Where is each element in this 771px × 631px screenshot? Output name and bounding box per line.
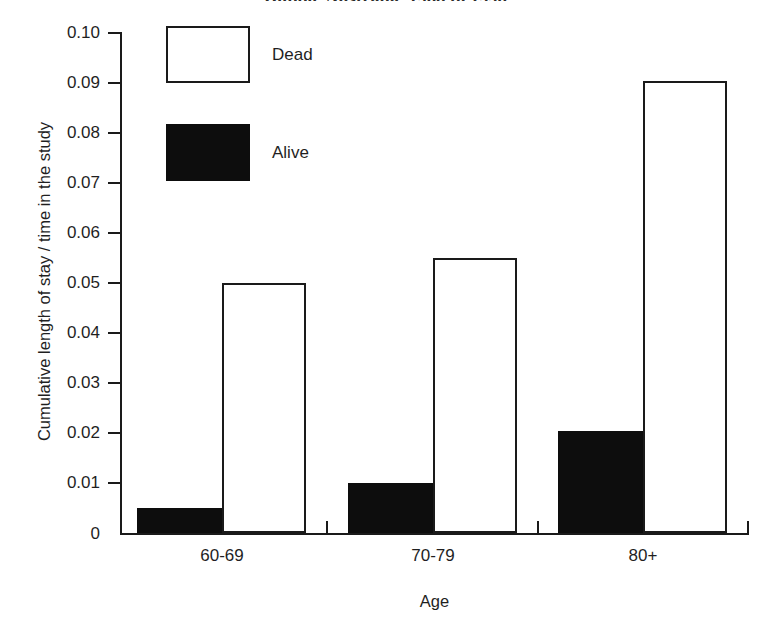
- bar-dead-70-79: [433, 258, 517, 533]
- y-tick-label-0.06: 0.06: [28, 223, 100, 243]
- y-tick-label-0.01: 0.01: [28, 473, 100, 493]
- y-tick-label-0.03: 0.03: [28, 373, 100, 393]
- bar-chart-figure: Dubbo, Australia, 1988 to 1998 Cumulativ…: [0, 0, 771, 631]
- y-tick-mark-0.07: [108, 182, 122, 184]
- y-tick-mark-0.01: [108, 482, 122, 484]
- bar-alive-80-plus: [558, 431, 643, 533]
- bar-alive-70-79: [348, 483, 433, 533]
- y-tick-mark-0.10: [108, 32, 122, 34]
- x-tick-label-80-plus: 80+: [583, 546, 703, 566]
- x-tick-mark-1: [326, 521, 328, 535]
- legend-item-alive: Alive: [166, 124, 309, 181]
- y-tick-label-0: 0: [28, 524, 100, 544]
- legend-swatch-alive-icon: [166, 124, 250, 181]
- legend-item-dead: Dead: [166, 26, 313, 83]
- x-tick-label-60-69: 60-69: [162, 546, 282, 566]
- x-axis-line: [120, 533, 749, 535]
- y-tick-mark-0.03: [108, 382, 122, 384]
- legend-label-alive: Alive: [272, 143, 309, 163]
- y-tick-label-0.09: 0.09: [28, 73, 100, 93]
- bar-dead-60-69: [222, 283, 306, 533]
- x-tick-mark-right: [747, 521, 749, 535]
- y-tick-mark-0.04: [108, 332, 122, 334]
- bar-alive-60-69: [137, 508, 222, 533]
- y-tick-label-0.08: 0.08: [28, 123, 100, 143]
- legend-swatch-dead-icon: [166, 26, 250, 83]
- y-tick-label-0.04: 0.04: [28, 323, 100, 343]
- legend-label-dead: Dead: [272, 45, 313, 65]
- y-tick-label-0.10: 0.10: [28, 23, 100, 43]
- chart-title: Dubbo, Australia, 1988 to 1998: [0, 0, 771, 1]
- y-tick-mark-0.06: [108, 232, 122, 234]
- y-tick-mark-0.09: [108, 82, 122, 84]
- y-tick-label-0.02: 0.02: [28, 423, 100, 443]
- x-tick-mark-left: [120, 521, 122, 535]
- x-tick-label-70-79: 70-79: [373, 546, 493, 566]
- y-tick-mark-0.02: [108, 432, 122, 434]
- y-tick-mark-0.08: [108, 132, 122, 134]
- x-tick-mark-2: [537, 521, 539, 535]
- y-axis-line: [120, 33, 122, 535]
- bar-dead-80-plus: [643, 81, 727, 533]
- y-tick-mark-0.05: [108, 282, 122, 284]
- x-axis-title: Age: [120, 592, 749, 611]
- y-tick-label-0.05: 0.05: [28, 273, 100, 293]
- y-tick-label-0.07: 0.07: [28, 173, 100, 193]
